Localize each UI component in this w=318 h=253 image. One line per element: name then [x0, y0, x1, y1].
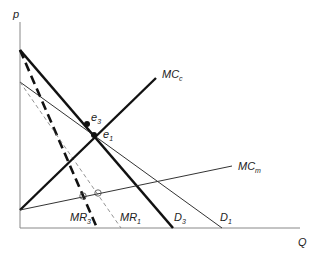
- label-e3: e3: [91, 111, 101, 125]
- curve-mcc: [20, 78, 156, 210]
- label-e1: e1: [103, 128, 113, 142]
- point-e3: [84, 121, 90, 127]
- label-mcm: MCm: [238, 160, 261, 174]
- axes: [20, 22, 300, 228]
- point-e1: [91, 132, 97, 138]
- x-axis-label: Q: [298, 236, 307, 248]
- label-d3: D3: [174, 211, 186, 225]
- label-mr3: MR3: [70, 211, 91, 225]
- y-axis-label: p: [12, 8, 19, 20]
- curve-d1: [20, 82, 222, 228]
- label-mr1: MR1: [120, 211, 141, 225]
- curve-mr1: [20, 82, 121, 228]
- label-d1: D1: [220, 211, 232, 225]
- curves: [20, 50, 232, 228]
- curve-d3: [20, 50, 173, 228]
- economics-diagram: pQD3MR3D1MR1MCcMCme1e3: [0, 0, 318, 253]
- curve-mr3: [20, 50, 97, 228]
- label-mcc: MCc: [162, 68, 183, 82]
